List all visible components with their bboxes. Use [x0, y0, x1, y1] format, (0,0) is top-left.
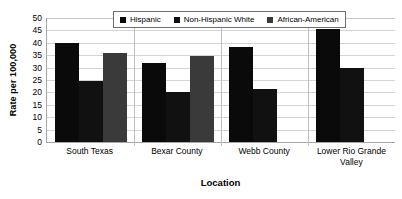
bars-layer: [47, 18, 395, 142]
x-axis-category-labels: South TexasBexar CountyWebb CountyLower …: [46, 146, 395, 168]
bar: [55, 43, 79, 142]
category-separator: [221, 18, 222, 146]
x-axis-title: Location: [46, 177, 395, 188]
bar: [253, 89, 277, 142]
bar: [166, 92, 190, 142]
bar-slot: [79, 18, 103, 142]
legend-swatch-icon: [120, 17, 126, 23]
bar: [340, 68, 364, 142]
bar-group: [221, 18, 308, 142]
plot-area: [46, 18, 395, 143]
legend-label: Hispanic: [130, 15, 161, 24]
x-axis-label-0: South Texas: [46, 146, 133, 168]
bar-group: [308, 18, 395, 142]
y-axis-tick-10: 10: [33, 112, 42, 122]
y-axis-title: Rate per 100,000: [0, 0, 26, 160]
bar-group: [134, 18, 221, 142]
legend-item: Hispanic: [120, 15, 161, 24]
bar-slot: [142, 18, 166, 142]
category-separator: [134, 18, 135, 146]
chart-legend: HispanicNon-Hispanic WhiteAfrican-Americ…: [113, 11, 346, 28]
bar-group: [47, 18, 134, 142]
legend-swatch-icon: [267, 17, 273, 23]
bar-slot: [229, 18, 253, 142]
x-axis-label-3: Lower Rio Grande Valley: [308, 146, 395, 168]
bar: [79, 81, 103, 142]
y-axis-tick-20: 20: [33, 87, 42, 97]
x-axis-label-2: Webb County: [221, 146, 308, 168]
y-axis-tick-labels: 50454035302520151050: [24, 18, 44, 142]
bar-slot: [103, 18, 127, 142]
bar: [142, 63, 166, 142]
y-axis-tick-15: 15: [33, 100, 42, 110]
legend-label: Non-Hispanic White: [184, 15, 255, 24]
y-axis-tick-0: 0: [37, 137, 42, 147]
legend-item: African-American: [267, 15, 338, 24]
legend-item: Non-Hispanic White: [174, 15, 255, 24]
bar-slot: [316, 18, 340, 142]
bar-slot: [364, 18, 388, 142]
legend-swatch-icon: [174, 17, 180, 23]
legend-label: African-American: [277, 15, 338, 24]
bar: [316, 29, 340, 142]
bar-slot: [55, 18, 79, 142]
y-axis-tick-25: 25: [33, 75, 42, 85]
y-axis-title-text: Rate per 100,000: [8, 44, 18, 117]
bar-slot: [340, 18, 364, 142]
y-axis-tick-50: 50: [33, 13, 42, 23]
bar-slot: [277, 18, 301, 142]
y-axis-tick-35: 35: [33, 50, 42, 60]
bar-slot: [253, 18, 277, 142]
bar-chart-figure: Rate per 100,000 50454035302520151050 So…: [0, 0, 402, 199]
bar: [103, 53, 127, 142]
y-axis-tick-30: 30: [33, 63, 42, 73]
bar: [190, 56, 214, 142]
y-axis-tick-45: 45: [33, 25, 42, 35]
bar-slot: [166, 18, 190, 142]
bar-slot: [190, 18, 214, 142]
category-separator: [308, 18, 309, 146]
y-axis-tick-40: 40: [33, 38, 42, 48]
bar: [229, 47, 253, 142]
y-axis-tick-5: 5: [37, 125, 42, 135]
x-axis-label-1: Bexar County: [133, 146, 220, 168]
